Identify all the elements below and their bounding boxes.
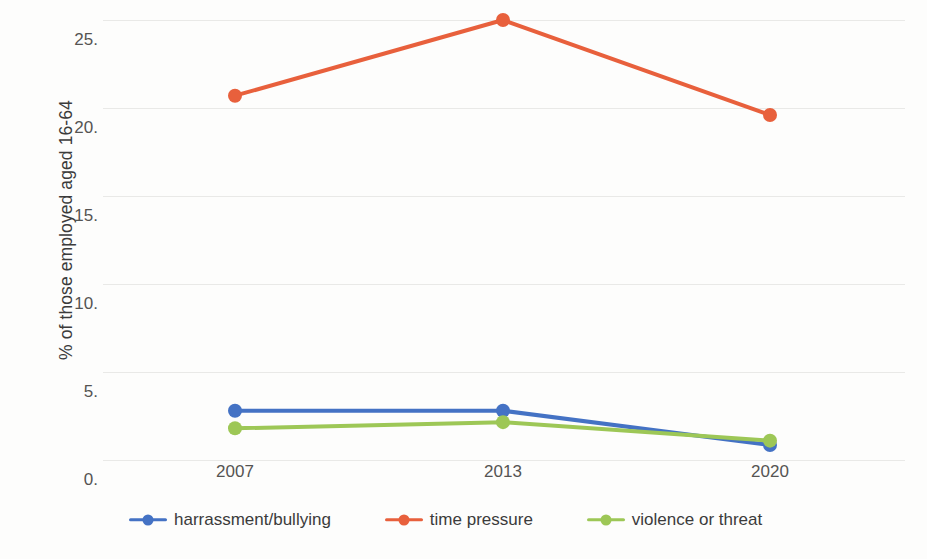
legend-marker-icon	[587, 513, 625, 527]
data-point[interactable]	[496, 415, 510, 429]
x-axis-tick-labels: 200720132020	[103, 462, 905, 492]
y-tick-label: 20.	[40, 118, 98, 138]
series-layer	[103, 20, 905, 460]
x-tick-label: 2007	[216, 462, 254, 482]
series-time-pressure	[228, 13, 777, 122]
line-chart-figure: % of those employed aged 16-64 0.5.10.15…	[0, 0, 927, 559]
data-point[interactable]	[228, 404, 242, 418]
y-tick-label: 25.	[40, 30, 98, 50]
legend-marker-icon	[129, 513, 167, 527]
legend-dot	[398, 515, 409, 526]
series-violence-or-threat	[228, 415, 777, 447]
data-point[interactable]	[763, 434, 777, 448]
y-tick-label: 15.	[40, 206, 98, 226]
legend-marker-icon	[385, 513, 423, 527]
legend-dot	[143, 515, 154, 526]
x-tick-label: 2020	[751, 462, 789, 482]
legend-label: violence or threat	[632, 510, 762, 530]
chart-legend: harrassment/bullyingtime pressureviolenc…	[103, 500, 905, 540]
series-line	[235, 20, 770, 115]
data-point[interactable]	[228, 89, 242, 103]
y-tick-label: 0.	[40, 470, 98, 490]
x-tick-label: 2013	[484, 462, 522, 482]
legend-dot	[600, 515, 611, 526]
y-tick-label: 5.	[40, 382, 98, 402]
legend-item-violence-or-threat[interactable]: violence or threat	[587, 510, 762, 530]
legend-label: harrassment/bullying	[174, 510, 331, 530]
legend-item-harrassment-bullying[interactable]: harrassment/bullying	[129, 510, 331, 530]
data-point[interactable]	[228, 421, 242, 435]
legend-label: time pressure	[430, 510, 533, 530]
y-tick-label: 10.	[40, 294, 98, 314]
data-point[interactable]	[763, 108, 777, 122]
data-point[interactable]	[496, 13, 510, 27]
legend-item-time-pressure[interactable]: time pressure	[385, 510, 533, 530]
gridline	[103, 460, 905, 461]
plot-area	[103, 20, 905, 460]
y-axis-tick-labels: 0.5.10.15.20.25.	[40, 20, 98, 460]
